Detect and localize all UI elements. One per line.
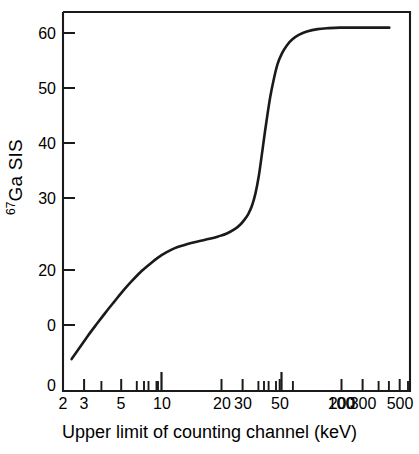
y-tick-label-40: 40 [22, 136, 56, 152]
x-axis-labeled-ticks [63, 379, 400, 391]
data-series-line [72, 28, 390, 359]
x-tick-label-3: 3 [71, 396, 97, 412]
x-axis-title: Upper limit of counting channel (keV) [0, 421, 419, 443]
y-axis-ticks [63, 33, 75, 325]
x-tick-label-50: 50 [263, 396, 297, 412]
y-axis-title-superscript: 67 [4, 202, 18, 215]
x-tick-label-5: 5 [108, 396, 134, 412]
chart-figure: 67Ga SIS 60 50 40 30 20 0 0 [0, 0, 419, 454]
y-axis-title: 67Ga SIS [0, 97, 33, 257]
axis-frame [63, 12, 410, 391]
x-tick-label-10: 10 [145, 396, 179, 412]
y-tick-label-60: 60 [22, 26, 56, 42]
y-tick-label-50: 50 [22, 81, 56, 97]
x-tick-label-500: 500 [378, 396, 419, 412]
y-tick-label-30: 30 [22, 191, 56, 207]
y-axis-origin-label: 0 [22, 378, 56, 394]
x-tick-label-30: 30 [226, 396, 260, 412]
y-tick-label-20: 20 [22, 263, 56, 279]
plot-area [0, 0, 419, 454]
y-tick-label-0: 0 [22, 318, 56, 334]
